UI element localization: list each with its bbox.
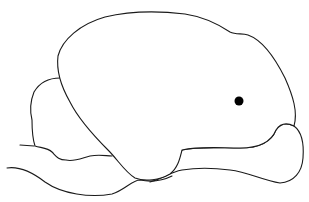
brain-illustration <box>0 0 309 202</box>
marker-core <box>235 97 244 106</box>
spinal-line-upper <box>20 145 34 146</box>
